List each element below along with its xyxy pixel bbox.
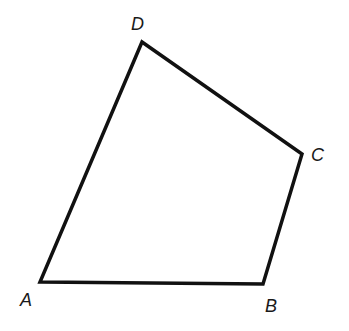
quadrilateral-abcd — [40, 42, 302, 284]
vertex-label-a: A — [19, 290, 32, 310]
vertex-label-d: D — [131, 14, 144, 34]
vertex-label-b: B — [265, 296, 277, 316]
vertex-label-c: C — [311, 145, 325, 165]
quadrilateral-diagram: A B C D — [0, 0, 349, 331]
